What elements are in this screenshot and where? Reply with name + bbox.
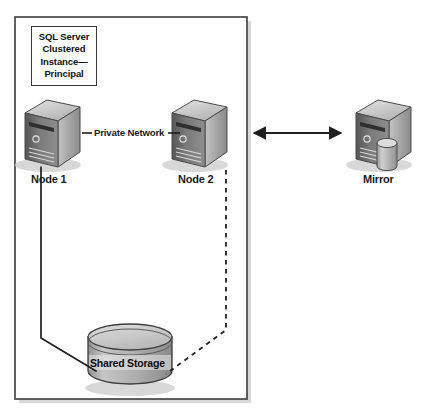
- cluster-instance-label-box: SQL Server Clustered Instance— Principal: [31, 26, 97, 86]
- mirror-database-icon: [377, 138, 397, 170]
- mirror-label: Mirror: [363, 173, 394, 186]
- cluster-label-line-3: Instance—: [34, 56, 94, 68]
- cluster-label-line-2: Clustered: [34, 43, 94, 55]
- cluster-mirroring-diagram: SQL Server Clustered Instance— Principal…: [0, 0, 428, 420]
- private-network-label: Private Network: [94, 127, 164, 139]
- cluster-label-line-4: Principal: [34, 68, 94, 80]
- shared-storage-label: Shared Storage: [90, 357, 165, 370]
- server-mirror-icon: [346, 100, 412, 172]
- node1-label: Node 1: [31, 173, 66, 186]
- node2-label: Node 2: [178, 173, 213, 186]
- cluster-label-line-1: SQL Server: [34, 31, 94, 43]
